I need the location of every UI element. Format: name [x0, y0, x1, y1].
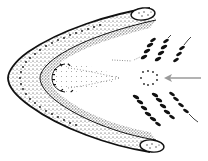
- illustration: [0, 0, 208, 161]
- inner-cavity: [52, 63, 122, 92]
- tooth-row: [151, 92, 175, 120]
- tooth-row: [172, 37, 191, 63]
- central-dot-ring: [140, 70, 158, 86]
- upper-tooth-rows: [112, 35, 191, 63]
- pointer-arrow: [164, 74, 201, 82]
- organ-drawing: [0, 0, 208, 161]
- tooth-row: [134, 37, 157, 60]
- tooth-row: [154, 35, 171, 62]
- lower-tooth-rows: [132, 91, 198, 127]
